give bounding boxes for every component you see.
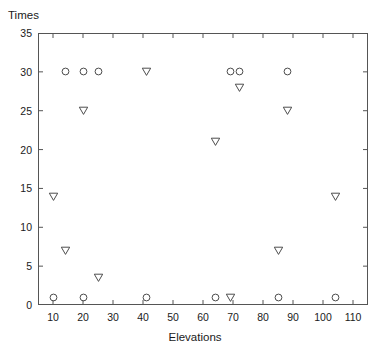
data-point-circle (141, 292, 152, 303)
x-tick-label: 110 (338, 312, 368, 322)
scatter-plot-figure: Times 05101520253035 1020304050607080901… (0, 0, 390, 354)
data-point-circle (282, 66, 293, 77)
data-point-circle (210, 292, 221, 303)
plot-area (38, 33, 368, 305)
data-point-triangle (60, 245, 71, 256)
x-tick-label: 30 (98, 312, 128, 322)
x-tick-label: 50 (158, 312, 188, 322)
x-tick-label: 10 (38, 312, 68, 322)
x-tick-label: 100 (308, 312, 338, 322)
data-point-triangle (210, 136, 221, 147)
y-tick-label: 25 (6, 106, 32, 116)
y-tick-label: 0 (6, 300, 32, 310)
axis-tick-marks (38, 33, 368, 305)
data-point-triangle (330, 191, 341, 202)
plot-frame (38, 33, 368, 305)
y-tick-label: 30 (6, 67, 32, 77)
data-point-circle (60, 66, 71, 77)
y-tick-label: 10 (6, 222, 32, 232)
x-tick-label: 80 (248, 312, 278, 322)
data-point-circle (78, 66, 89, 77)
data-point-circle (273, 292, 284, 303)
data-point-circle (330, 292, 341, 303)
data-point-triangle (141, 66, 152, 77)
y-axis-title: Times (8, 8, 39, 22)
x-tick-label: 40 (128, 312, 158, 322)
data-point-circle (234, 66, 245, 77)
y-tick-label: 5 (6, 261, 32, 271)
data-point-triangle (225, 292, 236, 303)
data-point-triangle (273, 245, 284, 256)
data-point-circle (225, 66, 236, 77)
data-point-triangle (282, 105, 293, 116)
x-tick-label: 20 (68, 312, 98, 322)
y-tick-label: 15 (6, 183, 32, 193)
data-point-circle (93, 66, 104, 77)
x-tick-label: 70 (218, 312, 248, 322)
data-point-triangle (93, 272, 104, 283)
x-tick-label: 60 (188, 312, 218, 322)
x-tick-label: 90 (278, 312, 308, 322)
data-point-triangle (78, 105, 89, 116)
x-axis-title: Elevations (0, 330, 390, 344)
y-tick-label: 20 (6, 145, 32, 155)
data-point-circle (78, 292, 89, 303)
data-point-circle (48, 292, 59, 303)
axis-frame (39, 34, 368, 305)
data-point-triangle (234, 82, 245, 93)
data-point-triangle (48, 191, 59, 202)
y-tick-label: 35 (6, 28, 32, 38)
